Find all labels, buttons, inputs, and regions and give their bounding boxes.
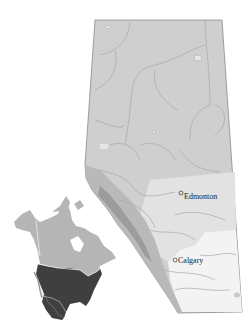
lake — [194, 55, 202, 61]
city-calgary: Calgary — [173, 256, 203, 265]
lake — [152, 131, 156, 134]
lake — [100, 144, 108, 149]
city-label: Calgary — [178, 256, 203, 265]
north-america-inset — [14, 196, 116, 320]
city-label: Edmonton — [184, 192, 217, 201]
alberta-map: Edmonton Calgary — [0, 0, 250, 332]
city-edmonton: Edmonton — [179, 191, 217, 201]
arctic-islands — [52, 196, 84, 212]
canada-alaska-shape — [14, 204, 116, 276]
lake — [105, 26, 111, 29]
lake — [234, 293, 240, 298]
